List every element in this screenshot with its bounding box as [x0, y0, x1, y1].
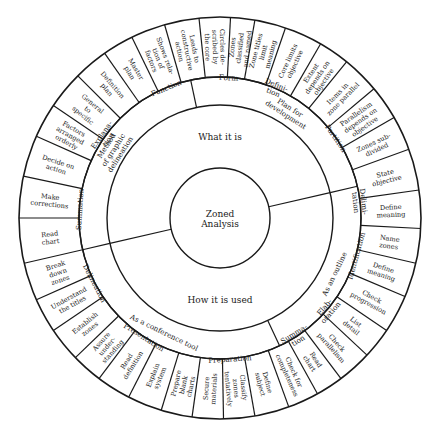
ring4-divider [222, 359, 223, 419]
core-label: ZonedAnalysis [200, 209, 239, 229]
ring3-label: Summa-tion [279, 322, 314, 353]
ring4-label: Parallelismdepends onobjective [338, 100, 383, 141]
ring4-label: Circles de-scribed bythe core [203, 29, 227, 65]
ring4-label: Readchart [41, 229, 61, 247]
ring2-label: Plan fordevelopment [264, 91, 313, 131]
ring4-label: Definitionplan [93, 70, 127, 106]
ring1-divider [110, 229, 171, 243]
ring4-label: Breakdownzones [45, 258, 72, 287]
ring4-divider [361, 225, 421, 228]
ring3-label: Form [219, 73, 239, 83]
ring3-label: Function [149, 78, 183, 99]
ring4-label: Securematerials [202, 372, 220, 405]
ring4-label: Decide onaction [39, 153, 76, 178]
ring4-divider [23, 176, 82, 188]
zoned-analysis-wheel: ZonedAnalysisWhat it isHow it is usedMet… [0, 0, 443, 434]
ring3-label: Summation [74, 188, 86, 230]
ring4-label: Assureunder-standing [89, 327, 126, 365]
ring2-divider [83, 243, 110, 249]
ring1-label: How it is used [187, 295, 252, 305]
ring4-label: Understandthe titles [50, 285, 93, 318]
ring3-label: Defini-tion [260, 76, 289, 101]
ring4-divider [357, 250, 415, 263]
ring1-label: What it is [198, 132, 242, 142]
ring4-label: Stateobjective [370, 166, 403, 188]
ring4-label: Prepareblankcharts [169, 369, 197, 400]
ring4-label: Definemeaning [366, 260, 399, 284]
ring1-divider [269, 193, 330, 207]
ring3-label: Identification [345, 231, 367, 281]
ring4-label: Listdetail [341, 313, 366, 337]
ring4-label: Explainsystem [145, 361, 169, 391]
ring2-divider [268, 320, 280, 345]
ring4-divider [24, 250, 82, 263]
ring4-label: Masterplan [120, 57, 146, 86]
ring3-label: Delimi-tation [350, 188, 370, 217]
ring4-label: Namezones [378, 233, 400, 251]
ring4-label: Makecorrections [30, 191, 70, 211]
ring4-label: Classifyzonestentatively [222, 369, 249, 407]
ring4-label: Definemeaning [376, 203, 406, 220]
ring4-label: Factorsarrangedorderly [51, 118, 90, 154]
ring4-label: Checkprogression [349, 284, 392, 317]
ring4-label: Definesubject [253, 370, 274, 398]
ring2-divider [191, 80, 197, 107]
ring4-label: Shows rela-tion offactors [140, 36, 176, 81]
ring2-label: As an outline [320, 250, 349, 298]
